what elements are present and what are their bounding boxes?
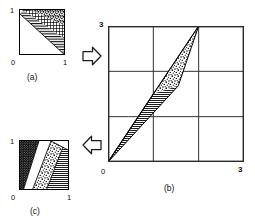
panel-a-graphic	[20, 10, 65, 55]
panel-a-y-max-label: 1	[10, 7, 14, 15]
panel-b-y-max-label: 3	[99, 21, 104, 29]
panel-a-square	[19, 9, 65, 55]
panel-b-caption: (b)	[164, 184, 174, 193]
panel-c-y-max-label: 1	[10, 138, 14, 146]
arrow-left-outline-icon	[80, 133, 104, 157]
arrow-a-to-b	[80, 44, 104, 68]
panel-a-caption: (a)	[27, 73, 37, 82]
panel-a-x-min-label: 0	[11, 59, 15, 67]
panel-b-graphic	[108, 26, 244, 162]
figure-root: 1 0 1 (a)	[0, 0, 255, 222]
panel-c-graphic	[20, 141, 69, 190]
panel-c-caption: (c)	[30, 207, 40, 216]
arrow-b-to-c	[80, 133, 104, 157]
panel-a-x-max-label: 1	[63, 59, 67, 67]
arrow-right-outline-icon	[80, 44, 104, 68]
panel-c-square	[19, 140, 69, 190]
panel-c-x-max-label: 1	[67, 194, 71, 202]
panel-b-origin-label: 0	[101, 168, 105, 176]
panel-b-grid	[108, 26, 244, 162]
panel-c-x-min-label: 0	[11, 194, 15, 202]
panel-b-x-max-label: 3	[238, 166, 243, 174]
